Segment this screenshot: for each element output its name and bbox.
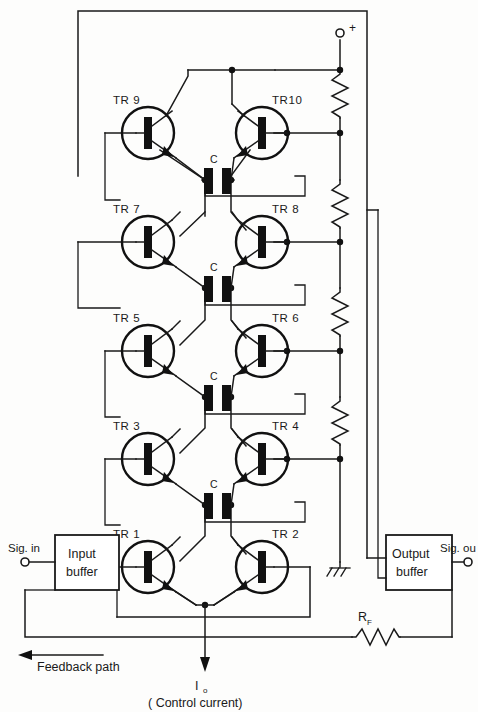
output-buffer-line1: Output — [392, 547, 430, 561]
label-TR4: TR 4 — [272, 420, 299, 432]
control-current-arrow: I o ( Control current) — [148, 605, 242, 710]
capacitor-row-3: C — [204, 370, 231, 411]
signal-out-label: Sig. ou — [440, 542, 476, 554]
capacitor-label-4: C — [210, 478, 218, 490]
label-TR9: TR 9 — [113, 94, 140, 106]
supply-positive-terminal: + — [336, 21, 356, 37]
label-TR7: TR 7 — [113, 203, 140, 215]
bias-resistor-4 — [332, 397, 348, 445]
bias-resistor-2 — [332, 180, 348, 228]
label-TR3: TR 3 — [113, 420, 140, 432]
input-buffer-block[interactable]: Input buffer — [55, 535, 119, 590]
label-TR6: TR 6 — [272, 312, 299, 324]
stage-row-1 — [105, 67, 343, 236]
bias-resistor-3 — [332, 288, 348, 336]
capacitor-label-2: C — [210, 261, 218, 273]
transistor-TR2 — [214, 537, 288, 605]
feedback-resistor-label: R F — [358, 610, 372, 627]
schematic-canvas: + — [0, 0, 478, 712]
input-buffer-line1: Input — [68, 547, 96, 561]
label-TR10: TR10 — [272, 94, 303, 106]
transistor-TR4 — [231, 429, 288, 505]
capacitor-row-1: C — [204, 153, 231, 194]
transistor-TR9 — [122, 107, 205, 180]
output-buffer-line2: buffer — [396, 565, 428, 579]
schematic-figure: + — [0, 0, 478, 712]
capacitor-row-4: C — [204, 478, 231, 519]
capacitor-row-2: C — [204, 261, 231, 302]
feedback-resistor-symbol: R — [358, 610, 367, 624]
label-TR8: TR 8 — [272, 203, 299, 215]
transistor-TR1 — [122, 537, 196, 605]
input-buffer-line2: buffer — [66, 565, 98, 579]
signal-in-terminal[interactable]: Sig. in — [8, 542, 55, 566]
feedback-resistor-subscript: F — [367, 618, 372, 627]
capacitor-label-1: C — [210, 153, 218, 165]
control-current-subscript: o — [203, 686, 208, 695]
bias-resistor-1 — [332, 70, 348, 118]
transistor-TR10 — [231, 107, 288, 180]
transistor-TR6 — [231, 321, 288, 397]
capacitor-label-3: C — [210, 370, 218, 382]
label-TR5: TR 5 — [113, 312, 140, 324]
supply-plus-label: + — [349, 21, 356, 35]
ground-symbol — [327, 562, 350, 576]
feedback-path-annotation: Feedback path — [18, 650, 120, 674]
signal-in-label: Sig. in — [8, 542, 40, 554]
label-TR2: TR 2 — [272, 528, 299, 540]
control-current-note: ( Control current) — [148, 696, 242, 710]
feedback-path-label: Feedback path — [37, 660, 120, 674]
control-current-symbol: I — [195, 679, 198, 693]
